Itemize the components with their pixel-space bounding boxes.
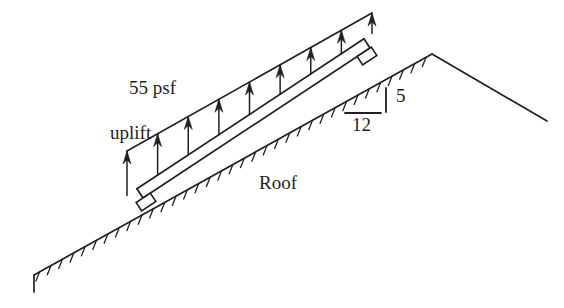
slope-rise-label: 5 <box>396 85 406 107</box>
uplift-arrow <box>184 117 192 155</box>
roof-beam-right-cap <box>364 39 370 48</box>
uplift-arrow <box>307 48 315 74</box>
slope-run-label: 12 <box>352 114 371 136</box>
uplift-arrow <box>215 99 223 134</box>
uplift-arrow <box>276 65 284 94</box>
diagram-canvas <box>0 0 564 308</box>
upper-right-bearing <box>357 47 377 65</box>
uplift-arrow <box>337 30 345 53</box>
uplift-arrow <box>368 13 376 33</box>
ground-slope-right <box>432 54 547 121</box>
uplift-arrow <box>246 82 254 114</box>
uplift-sense-text: uplift <box>110 122 176 144</box>
roof-beam-left-cap <box>137 189 143 198</box>
roof-label: Roof <box>259 172 297 194</box>
uplift-magnitude-text: 55 psf <box>129 77 176 98</box>
uplift-load-label: 55 psf uplift <box>110 55 176 189</box>
ground-hatching <box>36 57 426 281</box>
roof-uplift-figure: 55 psf uplift Roof 5 12 <box>0 0 564 308</box>
